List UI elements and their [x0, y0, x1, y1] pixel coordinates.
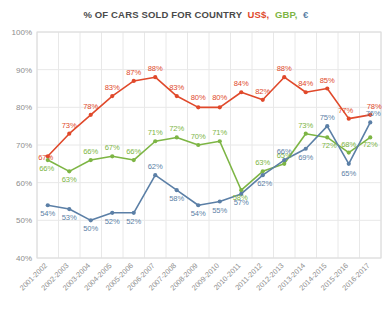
- y-axis-tick-label: 60%: [16, 179, 32, 188]
- data-point: [304, 132, 308, 136]
- data-point: [196, 143, 200, 147]
- data-label: 83%: [105, 83, 120, 92]
- data-label: 52%: [126, 217, 141, 226]
- data-label: 87%: [126, 68, 141, 77]
- chart-container: % OF CARS SOLD FOR COUNTRY US$, GBP, € 1…: [0, 0, 392, 326]
- data-labels-group: 67%73%78%83%87%88%83%80%80%84%82%88%84%8…: [38, 64, 382, 233]
- data-label: 66%: [39, 164, 54, 173]
- y-axis-tick-label: 50%: [16, 216, 32, 225]
- data-label: 55%: [212, 206, 227, 215]
- chart-title: % OF CARS SOLD FOR COUNTRY US$, GBP, €: [0, 9, 392, 20]
- data-point: [89, 158, 93, 162]
- legend-item-usd: US$: [248, 9, 267, 20]
- data-point: [175, 135, 179, 139]
- data-point: [67, 169, 71, 173]
- y-axis-tick-label: 40%: [16, 254, 32, 263]
- data-point: [261, 169, 265, 173]
- data-label: 53%: [62, 213, 77, 222]
- data-label: 82%: [255, 87, 270, 96]
- chart-plot-area: 100%90%80%70%60%50%40% 2001-20022002-200…: [0, 0, 392, 326]
- data-point: [46, 203, 50, 207]
- data-label: 78%: [83, 102, 98, 111]
- data-point: [175, 94, 179, 98]
- data-point: [153, 139, 157, 143]
- data-point: [67, 132, 71, 136]
- data-point: [261, 173, 265, 177]
- data-label: 71%: [212, 128, 227, 137]
- x-axis-labels-group: 2001-20022002-20032003-20042004-20052005…: [18, 261, 372, 292]
- data-label: 83%: [169, 83, 184, 92]
- data-label: 62%: [148, 162, 163, 171]
- data-point: [325, 135, 329, 139]
- data-label: 50%: [83, 224, 98, 233]
- data-point: [89, 218, 93, 222]
- data-point: [261, 98, 265, 102]
- data-label: 73%: [62, 121, 77, 130]
- y-axis-tick-label: 70%: [16, 141, 32, 150]
- chart-title-text: % OF CARS SOLD FOR COUNTRY: [83, 9, 242, 20]
- data-label: 69%: [298, 153, 313, 162]
- data-point: [132, 211, 136, 215]
- data-point: [175, 188, 179, 192]
- data-label: 85%: [320, 76, 335, 85]
- data-label: 76%: [366, 109, 381, 118]
- data-point: [368, 120, 372, 124]
- legend-item-eur: €: [303, 9, 308, 20]
- y-axis-tick-label: 80%: [16, 103, 32, 112]
- legend-separator-1: ,: [267, 9, 270, 20]
- data-point: [368, 135, 372, 139]
- data-label: 58%: [169, 194, 184, 203]
- data-label: 71%: [148, 128, 163, 137]
- data-point: [347, 117, 351, 121]
- data-label: 63%: [255, 158, 270, 167]
- data-label: 80%: [212, 93, 227, 102]
- data-label: 72%: [322, 141, 337, 150]
- data-point: [282, 162, 286, 166]
- data-label: 72%: [169, 124, 184, 133]
- data-label: 77%: [338, 106, 353, 115]
- data-point: [153, 173, 157, 177]
- data-point: [325, 86, 329, 90]
- data-label: 66%: [83, 147, 98, 156]
- data-label: 54%: [191, 209, 206, 218]
- data-label: 75%: [320, 113, 335, 122]
- data-point: [132, 79, 136, 83]
- data-label: 84%: [234, 79, 249, 88]
- data-point: [89, 113, 93, 117]
- data-label: 52%: [105, 217, 120, 226]
- data-point: [196, 105, 200, 109]
- data-label: 66%: [277, 147, 292, 156]
- y-axis-tick-label: 90%: [16, 66, 32, 75]
- data-point: [218, 139, 222, 143]
- data-label: 54%: [40, 209, 55, 218]
- data-label: 72%: [363, 140, 378, 149]
- data-point: [132, 158, 136, 162]
- data-point: [110, 211, 114, 215]
- legend-item-gbp: GBP: [275, 9, 295, 20]
- data-label: 62%: [257, 179, 272, 188]
- y-axis-tick-label: 100%: [12, 28, 32, 37]
- data-point: [153, 75, 157, 79]
- data-label: 67%: [38, 153, 53, 162]
- data-point: [325, 124, 329, 128]
- data-label: 57%: [234, 198, 249, 207]
- data-point: [67, 207, 71, 211]
- data-point: [304, 90, 308, 94]
- data-point: [218, 199, 222, 203]
- data-label: 73%: [298, 121, 313, 130]
- data-point: [282, 75, 286, 79]
- data-point: [304, 147, 308, 151]
- data-label: 68%: [341, 140, 356, 149]
- data-label: 88%: [277, 64, 292, 73]
- data-label: 65%: [341, 169, 356, 178]
- data-point: [110, 94, 114, 98]
- data-point: [347, 150, 351, 154]
- data-label: 70%: [191, 132, 206, 141]
- data-point: [239, 90, 243, 94]
- data-point: [196, 203, 200, 207]
- data-label: 63%: [62, 175, 77, 184]
- data-label: 80%: [191, 93, 206, 102]
- legend-separator-2: ,: [295, 9, 298, 20]
- data-point: [347, 162, 351, 166]
- data-point: [110, 154, 114, 158]
